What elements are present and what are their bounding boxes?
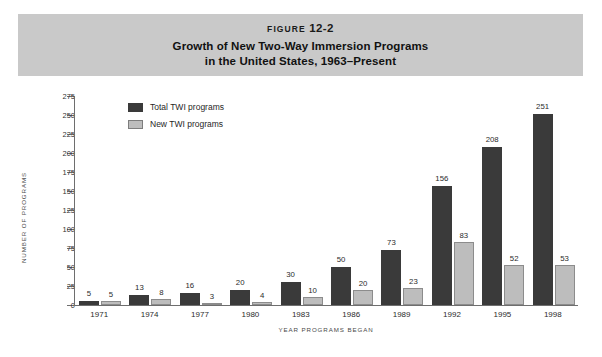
bar-total: 16 xyxy=(180,293,200,305)
bar-new: 23 xyxy=(403,288,423,305)
bar-value-label: 16 xyxy=(185,281,194,290)
bar-group: 5020 xyxy=(326,96,376,305)
bar-group: 55 xyxy=(74,96,124,305)
bar-value-label: 23 xyxy=(409,277,418,286)
bar-total: 13 xyxy=(129,295,149,305)
y-axis-title: NUMBER OF PROGRAMS xyxy=(20,153,27,283)
y-axis-tick-label: 175 xyxy=(47,168,75,177)
y-axis-tick-label: 125 xyxy=(47,206,75,215)
figure-label-prefix: FIGURE xyxy=(267,24,306,34)
x-axis-tick-label: 1977 xyxy=(175,310,225,319)
bar-new: 8 xyxy=(151,299,171,305)
bar-value-label: 5 xyxy=(109,290,113,299)
bar-value-label: 30 xyxy=(286,270,295,279)
bar-new: 10 xyxy=(303,297,323,305)
y-axis-tick-label: 75 xyxy=(47,244,75,253)
x-axis-tick-label: 1998 xyxy=(528,310,578,319)
bar-value-label: 3 xyxy=(210,292,214,301)
bar-new: 20 xyxy=(353,290,373,305)
y-axis-tick-label: 150 xyxy=(47,187,75,196)
bar-total: 208 xyxy=(482,147,502,305)
bar-value-label: 208 xyxy=(486,135,499,144)
bar-groups: 55138163204301050207323156832085225153 xyxy=(74,96,578,305)
x-axis-tick-label: 1971 xyxy=(74,310,124,319)
bar-new: 52 xyxy=(504,265,524,305)
y-axis-tick-label: 200 xyxy=(47,149,75,158)
x-axis-line xyxy=(74,305,578,306)
bar-value-label: 251 xyxy=(536,102,549,111)
y-axis-tick-label: 100 xyxy=(47,225,75,234)
bar-group: 20852 xyxy=(477,96,527,305)
bar-group: 163 xyxy=(175,96,225,305)
figure-title-line-2: in the United States, 1963–Present xyxy=(18,54,583,69)
bar-total: 251 xyxy=(533,114,553,305)
bar-value-label: 4 xyxy=(260,291,264,300)
x-axis-title: YEAR PROGRAMS BEGAN xyxy=(74,326,578,333)
chart-plot-area: NUMBER OF PROGRAMS 025507510012515017520… xyxy=(0,86,602,336)
y-axis-tick-label: 225 xyxy=(47,130,75,139)
bar-value-label: 156 xyxy=(435,174,448,183)
x-axis-tick-label: 1992 xyxy=(427,310,477,319)
y-axis-tick-label: 0 xyxy=(47,301,75,310)
bar-new: 3 xyxy=(202,303,222,305)
x-axis-tick-label: 1983 xyxy=(276,310,326,319)
bar-value-label: 10 xyxy=(308,286,317,295)
bar-value-label: 83 xyxy=(459,231,468,240)
figure-label: FIGURE 12-2 xyxy=(18,22,583,34)
bar-group: 7323 xyxy=(376,96,426,305)
bar-value-label: 50 xyxy=(337,255,346,264)
bar-group: 15683 xyxy=(427,96,477,305)
bar-group: 25153 xyxy=(528,96,578,305)
bar-total: 30 xyxy=(281,282,301,305)
x-axis-tick-label: 1995 xyxy=(477,310,527,319)
bar-new: 83 xyxy=(454,242,474,305)
y-axis-tick-label: 25 xyxy=(47,282,75,291)
bar-total: 50 xyxy=(331,267,351,305)
bar-value-label: 13 xyxy=(135,283,144,292)
bar-value-label: 52 xyxy=(510,254,519,263)
x-axis-tick-label: 1974 xyxy=(124,310,174,319)
bar-value-label: 20 xyxy=(359,279,368,288)
figure-header-band: FIGURE 12-2 Growth of New Two-Way Immers… xyxy=(18,14,583,76)
bar-new: 5 xyxy=(101,301,121,305)
bar-value-label: 8 xyxy=(159,288,163,297)
bar-total: 20 xyxy=(230,290,250,305)
x-axis-tick-label: 1986 xyxy=(326,310,376,319)
bar-group: 204 xyxy=(225,96,275,305)
bar-value-label: 20 xyxy=(236,278,245,287)
bar-new: 53 xyxy=(555,265,575,305)
bar-value-label: 53 xyxy=(560,254,569,263)
bar-total: 73 xyxy=(381,250,401,305)
bar-value-label: 73 xyxy=(387,238,396,247)
y-axis-tick-label: 50 xyxy=(47,263,75,272)
x-axis-tick-label: 1980 xyxy=(225,310,275,319)
figure-container: FIGURE 12-2 Growth of New Two-Way Immers… xyxy=(0,0,602,357)
bar-new: 4 xyxy=(252,302,272,305)
figure-label-number: 12-2 xyxy=(309,22,334,34)
bar-value-label: 5 xyxy=(87,289,91,298)
figure-title-line-1: Growth of New Two-Way Immersion Programs xyxy=(18,39,583,54)
x-axis-tick-label: 1989 xyxy=(376,310,426,319)
bar-total: 5 xyxy=(79,301,99,305)
bar-group: 138 xyxy=(124,96,174,305)
y-axis-tick-label: 250 xyxy=(47,111,75,120)
y-axis-tick-label: 275 xyxy=(47,92,75,101)
bar-total: 156 xyxy=(432,186,452,305)
bar-group: 3010 xyxy=(276,96,326,305)
